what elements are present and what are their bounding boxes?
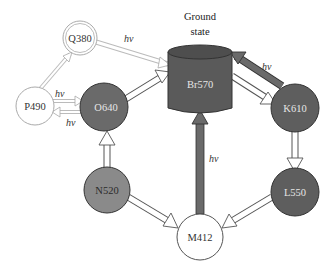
hv-label-m412-br570: hv <box>209 153 219 164</box>
label-p490: P490 <box>24 101 46 112</box>
hv-label-p490-o640: hv <box>55 88 65 99</box>
label-m412: M412 <box>187 232 212 243</box>
label-o640: O640 <box>94 102 117 113</box>
arrow-q380-to-br570 <box>96 42 170 68</box>
arrow-l550-to-m412 <box>222 197 272 228</box>
arrow-k610-to-l550 <box>287 130 303 172</box>
ground-state-title-line1: Ground <box>184 11 217 22</box>
hv-label-br570-k610: hv <box>262 61 272 72</box>
label-l550: L550 <box>284 187 306 198</box>
arrow-n520-to-o640 <box>99 131 115 170</box>
label-q380: Q380 <box>68 33 91 44</box>
arrow-o640-to-br570 <box>124 70 170 100</box>
label-k610: K610 <box>283 103 306 114</box>
label-br570: Br570 <box>187 79 213 90</box>
hv-label-q380-br570: hv <box>124 33 134 44</box>
hv-label-o640-p490: hv <box>66 117 76 128</box>
bacteriorhodopsin-photocycle-diagram: Ground state Br570 K610 L550 M412 N520 O… <box>0 0 335 272</box>
arrow-n520-to-m412 <box>128 197 178 228</box>
arrow-p490-to-q380 <box>40 52 72 89</box>
label-n520: N520 <box>95 185 118 196</box>
arrow-o640-to-p490 <box>52 107 82 117</box>
ground-state-title-line2: state <box>190 26 210 37</box>
arrow-m412-to-br570 <box>192 110 208 214</box>
